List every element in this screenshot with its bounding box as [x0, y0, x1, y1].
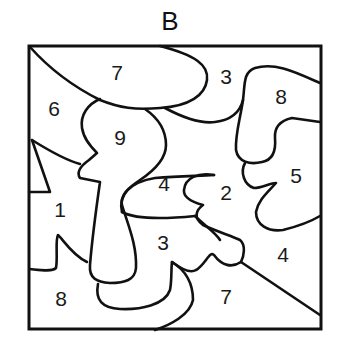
- region-label: 8: [55, 287, 67, 310]
- region-label: 3: [157, 231, 169, 254]
- region-label: 1: [54, 198, 66, 221]
- region-label: 2: [220, 181, 232, 204]
- region-label: 5: [290, 164, 302, 187]
- region-label: 3: [220, 65, 232, 88]
- region-label: 7: [111, 61, 123, 84]
- region-label: 6: [48, 97, 60, 120]
- color-by-number-puzzle: 7 3 8 6 9 5 4 2 1 3 4 7 8: [0, 0, 340, 354]
- region-label: 8: [275, 85, 287, 108]
- region-label: 4: [158, 172, 170, 195]
- region-label: 7: [220, 285, 232, 308]
- region-label: 4: [277, 243, 289, 266]
- region-label: 9: [114, 126, 126, 149]
